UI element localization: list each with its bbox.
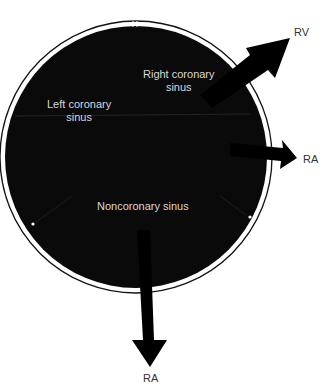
left-sinus-line2: sinus	[47, 111, 111, 124]
right-coronary-sinus-label: Right coronary sinus	[143, 68, 215, 94]
valve-body	[5, 26, 267, 288]
left-sinus-line1: Left coronary	[47, 98, 111, 111]
commissure-left	[31, 222, 34, 225]
aortic-valve-diagram	[0, 0, 332, 391]
right-sinus-line2: sinus	[143, 81, 215, 94]
commissure-right	[248, 215, 251, 218]
rv-label: RV	[294, 26, 309, 39]
noncoronary-sinus-label: Noncoronary sinus	[97, 200, 189, 213]
non-sinus-line1: Noncoronary sinus	[97, 200, 189, 213]
ra-bottom-label: RA	[143, 372, 158, 385]
right-sinus-line1: Right coronary	[143, 68, 215, 81]
left-coronary-sinus-label: Left coronary sinus	[47, 98, 111, 124]
ra-right-label: RA	[303, 153, 318, 166]
